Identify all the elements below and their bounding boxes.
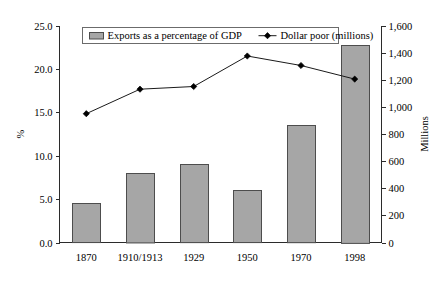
left-tick-label: 15.0	[34, 107, 52, 118]
legend-label-exports: Exports as a percentage of GDP	[108, 30, 243, 41]
chart-legend: Exports as a percentage of GDPDollar poo…	[83, 28, 374, 44]
left-tick-label: 20.0	[34, 64, 52, 75]
legend-label-dollar-poor: Dollar poor (millions)	[281, 30, 374, 42]
bar-1970	[288, 126, 316, 243]
bar-1910/1913	[127, 174, 155, 243]
left-tick-label: 5.0	[39, 194, 52, 205]
right-axis-title: Millions	[419, 116, 430, 152]
right-tick-label: 400	[389, 183, 405, 194]
right-tick-label: 600	[389, 156, 405, 167]
category-tick-label: 1998	[344, 252, 365, 263]
left-axis-title: %	[15, 129, 26, 138]
category-tick-label: 1950	[237, 252, 258, 263]
bar-1998	[342, 46, 370, 244]
right-tick-label: 0	[389, 238, 394, 249]
right-tick-label: 1,400	[389, 48, 413, 59]
bar-1950	[234, 191, 262, 243]
chart-container: 0.05.010.015.020.025.0% 02004006008001,0…	[0, 0, 441, 281]
left-tick-label: 10.0	[34, 151, 52, 162]
category-tick-label: 1870	[76, 252, 97, 263]
category-tick-label: 1929	[183, 252, 204, 263]
right-tick-label: 800	[389, 129, 405, 140]
bar-1929	[181, 165, 209, 243]
category-tick-label: 1970	[291, 252, 312, 263]
bar-1870	[73, 204, 101, 243]
right-tick-label: 200	[389, 210, 405, 221]
left-tick-label: 0.0	[39, 238, 52, 249]
combo-chart: 0.05.010.015.020.025.0% 02004006008001,0…	[0, 0, 441, 281]
right-tick-label: 1,200	[389, 75, 413, 86]
legend-swatch-exports	[90, 33, 104, 40]
right-tick-label: 1,000	[389, 102, 413, 113]
left-tick-label: 25.0	[34, 21, 52, 32]
right-tick-label: 1,600	[389, 21, 413, 32]
category-tick-label: 1910/1913	[118, 252, 163, 263]
